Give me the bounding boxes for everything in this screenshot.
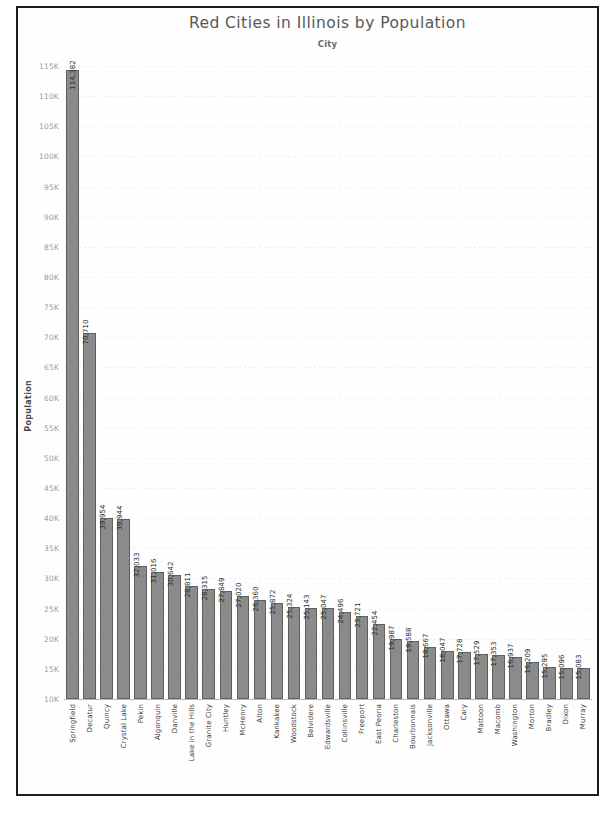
- bar-slot[interactable]: 27,849: [217, 54, 234, 699]
- bar[interactable]: 15,295: [543, 667, 556, 699]
- bar-slot[interactable]: 25,047: [319, 54, 336, 699]
- bar-value-label: 16,209: [524, 648, 532, 673]
- bar[interactable]: 16,209: [526, 662, 539, 699]
- bar[interactable]: 17,728: [458, 652, 471, 699]
- x-axis-tick-slot[interactable]: Belvidere: [302, 702, 319, 788]
- bar-slot[interactable]: 30,642: [166, 54, 183, 699]
- x-axis-tick-slot[interactable]: Dixon: [558, 702, 575, 788]
- bar-slot[interactable]: 25,143: [302, 54, 319, 699]
- x-axis-tick-slot[interactable]: Kankakee: [268, 702, 285, 788]
- bar[interactable]: 39,954: [100, 518, 113, 699]
- bar[interactable]: 31,016: [151, 572, 164, 699]
- bar-slot[interactable]: 28,315: [200, 54, 217, 699]
- bar[interactable]: 70,710: [83, 333, 96, 699]
- bar[interactable]: 23,721: [356, 616, 369, 699]
- bar[interactable]: 25,047: [322, 608, 335, 699]
- bar-slot[interactable]: 19,987: [388, 54, 405, 699]
- y-axis-tick-label: 20K: [44, 634, 59, 643]
- bar[interactable]: 17,529: [475, 654, 488, 699]
- x-axis-tick-slot[interactable]: Macomb: [490, 702, 507, 788]
- x-axis-tick-slot[interactable]: Mattoon: [473, 702, 490, 788]
- bar-slot[interactable]: 32,033: [132, 54, 149, 699]
- bar[interactable]: 18,667: [424, 647, 437, 699]
- x-axis-tick-slot[interactable]: Lake in the Hills: [183, 702, 200, 788]
- bar-slot[interactable]: 26,360: [251, 54, 268, 699]
- bar-slot[interactable]: 39,944: [115, 54, 132, 699]
- bar-slot[interactable]: 15,083: [575, 54, 592, 699]
- bar-slot[interactable]: 25,872: [268, 54, 285, 699]
- x-axis-tick-slot[interactable]: Ottawa: [439, 702, 456, 788]
- bar[interactable]: 26,360: [254, 600, 267, 699]
- bar-slot[interactable]: 15,096: [558, 54, 575, 699]
- bar[interactable]: 28,811: [185, 586, 198, 699]
- bar[interactable]: 15,096: [560, 668, 573, 699]
- bar[interactable]: 25,324: [288, 607, 301, 699]
- bar[interactable]: 39,944: [117, 519, 130, 700]
- x-axis-tick-slot[interactable]: Algonquin: [149, 702, 166, 788]
- bar-slot[interactable]: 39,954: [98, 54, 115, 699]
- x-axis-tick-label: Edwardsville: [324, 704, 332, 749]
- x-axis-tick-label: Granite City: [205, 704, 213, 747]
- x-axis-tick-slot[interactable]: Pekin: [132, 702, 149, 788]
- x-axis-tick-slot[interactable]: Alton: [251, 702, 268, 788]
- bar-value-label: 39,944: [116, 505, 124, 530]
- x-axis-tick-slot[interactable]: Collinsville: [337, 702, 354, 788]
- bar-slot[interactable]: 25,324: [285, 54, 302, 699]
- x-axis-tick-slot[interactable]: McHenry: [234, 702, 251, 788]
- bar[interactable]: 19,588: [407, 641, 420, 699]
- bar-slot[interactable]: 17,728: [456, 54, 473, 699]
- x-axis-tick-slot[interactable]: Bourbonnais: [405, 702, 422, 788]
- bar-slot[interactable]: 27,020: [234, 54, 251, 699]
- bar-slot[interactable]: 24,496: [337, 54, 354, 699]
- bar[interactable]: 28,315: [202, 589, 215, 699]
- bar-slot[interactable]: 31,016: [149, 54, 166, 699]
- bar-slot[interactable]: 17,353: [490, 54, 507, 699]
- bar-slot[interactable]: 70,710: [81, 54, 98, 699]
- x-axis-tick-slot[interactable]: Bradley: [541, 702, 558, 788]
- x-axis-tick-slot[interactable]: Charleston: [388, 702, 405, 788]
- x-axis-tick-slot[interactable]: Crystal Lake: [115, 702, 132, 788]
- bar[interactable]: 32,033: [134, 566, 147, 699]
- bar[interactable]: 25,143: [305, 608, 318, 699]
- bar[interactable]: 27,849: [220, 591, 233, 699]
- bar-slot[interactable]: 114,382: [64, 54, 81, 699]
- x-axis-tick-slot[interactable]: Cary: [456, 702, 473, 788]
- bar[interactable]: 24,496: [339, 612, 352, 699]
- x-axis-tick-slot[interactable]: Edwardsville: [319, 702, 336, 788]
- bar-slot[interactable]: 23,721: [354, 54, 371, 699]
- x-axis-tick-slot[interactable]: Granite City: [200, 702, 217, 788]
- x-axis-tick-slot[interactable]: Murray: [575, 702, 592, 788]
- x-axis-tick-slot[interactable]: Springfield: [64, 702, 81, 788]
- bar[interactable]: 17,353: [492, 655, 505, 699]
- bar-slot[interactable]: 18,667: [422, 54, 439, 699]
- bar[interactable]: 30,642: [168, 575, 181, 699]
- x-axis-tick-slot[interactable]: Freeport: [354, 702, 371, 788]
- bar[interactable]: 19,987: [390, 639, 403, 699]
- x-axis-tick-slot[interactable]: Morton: [524, 702, 541, 788]
- bar[interactable]: 114,382: [66, 70, 79, 699]
- bar[interactable]: 25,872: [271, 603, 284, 699]
- bar-slot[interactable]: 16,937: [507, 54, 524, 699]
- x-axis-tick-slot[interactable]: Jacksonville: [422, 702, 439, 788]
- bar[interactable]: 18,047: [441, 651, 454, 700]
- bar[interactable]: 15,083: [577, 668, 590, 699]
- x-axis-tick-slot[interactable]: Woodstock: [285, 702, 302, 788]
- x-axis-tick-slot[interactable]: East Peoria: [371, 702, 388, 788]
- x-axis-tick-slot[interactable]: Huntley: [217, 702, 234, 788]
- bar[interactable]: 22,454: [373, 624, 386, 699]
- bar-slot[interactable]: 16,209: [524, 54, 541, 699]
- bar-slot[interactable]: 15,295: [541, 54, 558, 699]
- bar-slot[interactable]: 19,588: [405, 54, 422, 699]
- x-axis-tick-slot[interactable]: Decatur: [81, 702, 98, 788]
- bar[interactable]: 16,937: [509, 657, 522, 699]
- x-axis-tick-slot[interactable]: Washington: [507, 702, 524, 788]
- bar-slot[interactable]: 17,529: [473, 54, 490, 699]
- bar-value-label: 17,529: [473, 640, 481, 665]
- bar-slot[interactable]: 18,047: [439, 54, 456, 699]
- x-axis-tick-slot[interactable]: Danville: [166, 702, 183, 788]
- bar-slot[interactable]: 28,811: [183, 54, 200, 699]
- bar[interactable]: 27,020: [237, 596, 250, 699]
- bar-slot[interactable]: 22,454: [371, 54, 388, 699]
- y-axis-tick-label: 45K: [44, 484, 59, 493]
- x-axis-tick-slot[interactable]: Quincy: [98, 702, 115, 788]
